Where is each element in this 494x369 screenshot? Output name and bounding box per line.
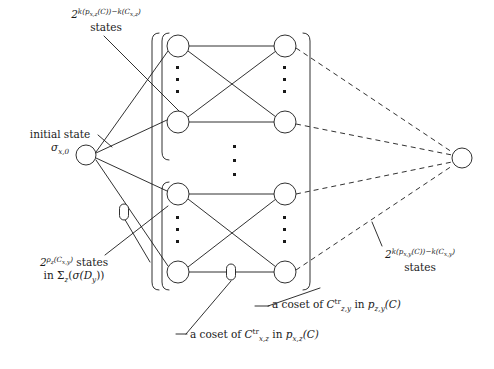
label-top-states-formula: 2k(px,z(C))−k(Cx,z): [36, 8, 176, 21]
oval-marker-coset-xz: [120, 204, 129, 220]
label-coset-xz: a coset of Ctrx,z in px,z(C): [190, 328, 390, 341]
label-top-states: 2k(px,z(C))−k(Cx,z) states: [36, 8, 176, 34]
label-coset-zy: a coset of Ctrz,y in pz,y(C): [272, 298, 472, 311]
ellipsis-dot: [283, 66, 286, 69]
node-final-state: [452, 148, 472, 168]
ellipsis-dots-group: [176, 66, 286, 243]
trellis-diagram-svg: [0, 0, 494, 369]
ellipsis-dot: [176, 240, 179, 243]
label-right-states-formula: 2k(px,y(C))−k(Cx,y): [352, 248, 488, 261]
label-initial-state-text: initial state: [12, 128, 108, 141]
node-top-left-1: [167, 35, 189, 57]
label-top-states-word: states: [36, 21, 176, 34]
label-bottom-left-set: in Σz(σ(Dy)): [14, 269, 134, 282]
label-right-states-word: states: [352, 261, 488, 274]
node-top-right-1: [274, 35, 296, 57]
ellipsis-dot: [283, 78, 286, 81]
figure-canvas: 2k(px,z(C))−k(Cx,z) states initial state…: [0, 0, 494, 369]
ellipsis-dot: [176, 216, 179, 219]
node-top-left-2: [167, 111, 189, 133]
ellipsis-dot: [233, 159, 236, 162]
leader-line-coset-xz: [186, 281, 231, 334]
node-bottom-right-2: [274, 261, 296, 283]
ellipsis-dot: [283, 240, 286, 243]
right-bracket: [303, 33, 310, 290]
node-top-right-2: [274, 111, 296, 133]
ellipsis-dot: [283, 228, 286, 231]
label-bottom-left-states: 2ρz(Cx,y) states in Σz(σ(Dy)): [14, 256, 134, 282]
leader-line-bottom-left: [105, 206, 168, 255]
dashed-edge-top-2-to-final: [296, 124, 452, 155]
oval-marker-coset-zy: [227, 264, 236, 280]
leader-line-right-states: [372, 222, 382, 246]
label-bottom-left-formula: 2ρz(Cx,y) states: [14, 256, 134, 269]
node-bottom-left-2: [167, 261, 189, 283]
ellipsis-dot: [176, 228, 179, 231]
edge-initial-to-bottom-1: [96, 158, 167, 191]
edge-initial-to-bottom-2: [96, 160, 168, 266]
ellipsis-dot: [233, 145, 236, 148]
label-right-states: 2k(px,y(C))−k(Cx,y) states: [352, 248, 488, 274]
ellipsis-dot: [176, 66, 179, 69]
node-bottom-right-1: [274, 183, 296, 205]
dashed-edge-top-1-to-final: [296, 48, 452, 152]
label-initial-state: initial state σx,0: [12, 128, 108, 154]
node-bottom-left-1: [167, 183, 189, 205]
ellipsis-dot: [176, 78, 179, 81]
label-initial-state-symbol: σx,0: [12, 141, 108, 154]
dashed-edge-bottom-1-to-final: [296, 162, 452, 194]
inner-left-bracket-top: [162, 33, 169, 160]
ellipsis-dot: [233, 173, 236, 176]
ellipsis-dot: [283, 90, 286, 93]
ellipsis-dot: [283, 216, 286, 219]
ellipsis-dot: [176, 90, 179, 93]
